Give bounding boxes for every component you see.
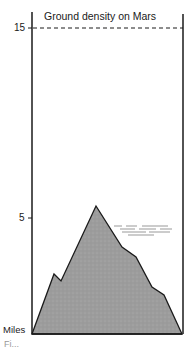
tick-label-15: 15 [14,22,25,34]
cloud-marks [114,226,172,235]
mountain-profile [32,206,182,334]
figure-caption: Fi... [4,338,19,350]
diagram-title: Ground density on Mars [44,10,156,22]
tick-label-5: 5 [19,212,25,224]
unit-label-miles: Miles [3,324,25,336]
